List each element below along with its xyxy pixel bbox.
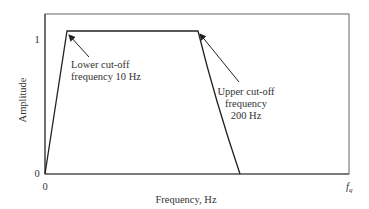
response-curve bbox=[45, 31, 240, 174]
y-tick-0: 0 bbox=[34, 168, 39, 179]
upper-cutoff-label-line1: Upper cut-off bbox=[217, 86, 275, 97]
x-tick-fq: fq bbox=[346, 181, 353, 194]
upper-cutoff-label-line3: 200 Hz bbox=[231, 110, 262, 121]
x-axis-label: Frequency, Hz bbox=[155, 194, 216, 205]
y-axis-label: Amplitude bbox=[17, 77, 28, 122]
y-tick-1: 1 bbox=[34, 34, 39, 45]
x-tick-0: 0 bbox=[42, 181, 47, 192]
upper-cutoff-arrow bbox=[200, 34, 239, 82]
upper-cutoff-label-line2: frequency bbox=[225, 98, 268, 109]
lower-cutoff-arrow bbox=[69, 35, 89, 57]
lower-cutoff-label-line1: Lower cut-off bbox=[71, 59, 130, 70]
plot-frame bbox=[45, 14, 349, 174]
lower-cutoff-label-line2: frequency 10 Hz bbox=[71, 71, 141, 82]
chart: 1 0 0 fq Frequency, Hz Amplitude Lower c… bbox=[0, 0, 369, 209]
